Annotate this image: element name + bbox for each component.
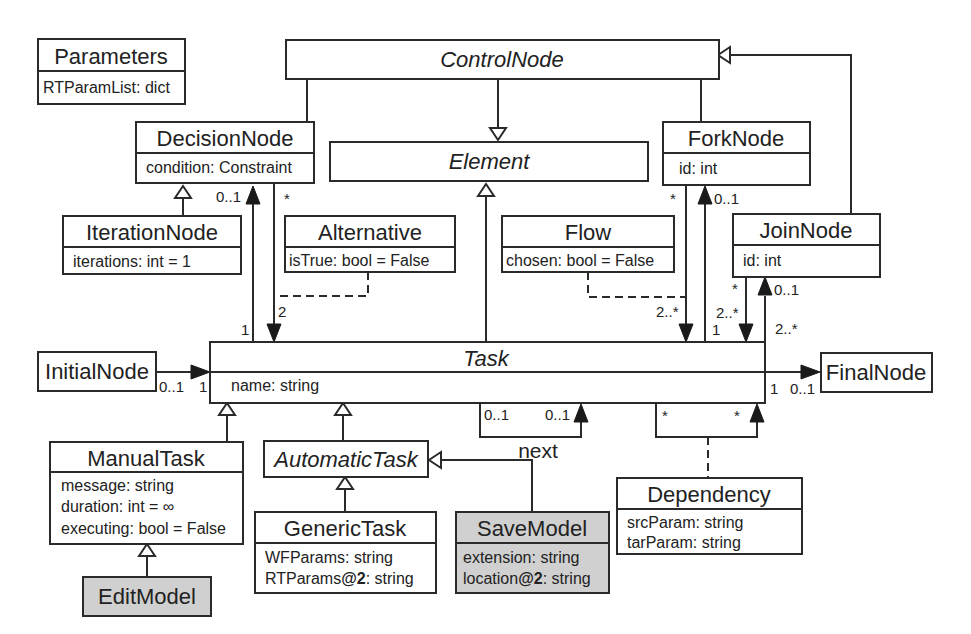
class-attr: location@2: string [463, 570, 591, 587]
arrowhead-icon [267, 324, 281, 342]
class-attr: iterations: int = 1 [73, 253, 191, 270]
class-name: ForkNode [688, 126, 785, 151]
class-joinnode[interactable]: JoinNode id: int [733, 214, 880, 277]
class-name: FinalNode [826, 360, 926, 385]
multiplicity: 2..* [656, 303, 679, 320]
class-attr: srcParam: string [627, 514, 743, 531]
class-name: Parameters [54, 44, 168, 69]
class-generictask[interactable]: GenericTask WFParams: string RTParams@2:… [255, 512, 436, 593]
multiplicity: 0..1 [545, 406, 570, 423]
generalization-arrow-icon [337, 477, 353, 489]
class-parameters[interactable]: Parameters RTParamList: dict [38, 39, 185, 104]
dependency-self-assoc [656, 403, 757, 437]
class-attr: WFParams: string [265, 549, 393, 566]
class-name: Task [463, 346, 510, 371]
class-name: GenericTask [284, 516, 407, 541]
generalization-arrow-icon [175, 186, 191, 198]
association-label-next: next [518, 439, 558, 462]
multiplicity: 0..1 [774, 281, 799, 298]
class-manualtask[interactable]: ManualTask message: string duration: int… [50, 442, 243, 544]
multiplicity: * [284, 190, 290, 207]
class-name: EditModel [98, 584, 196, 609]
uml-class-diagram: Parameters RTParamList: dict ControlNode… [0, 0, 971, 634]
class-attr: id: int [743, 252, 782, 269]
class-attr: executing: bool = False [61, 520, 226, 537]
class-name: IterationNode [86, 220, 218, 245]
class-editmodel[interactable]: EditModel [83, 577, 211, 616]
multiplicity: 0..1 [159, 378, 184, 395]
arrowhead-icon [698, 186, 712, 204]
multiplicity: * [670, 190, 676, 207]
class-attr: message: string [61, 477, 174, 494]
generalization-arrow-icon [335, 403, 351, 415]
class-attr: condition: Constraint [146, 159, 292, 176]
savemodel-to-automatic-line [440, 460, 532, 512]
class-decisionnode[interactable]: DecisionNode condition: Constraint [136, 122, 314, 183]
generalization-arrow-icon [478, 184, 494, 196]
class-name: ControlNode [440, 47, 564, 72]
arrowhead-icon [246, 186, 260, 204]
flow-assoc-class-link [588, 272, 686, 297]
multiplicity: * [732, 280, 738, 297]
generalization-arrow-icon [429, 452, 441, 468]
multiplicity: 2..* [775, 320, 798, 337]
multiplicity: 1 [199, 378, 207, 395]
class-controlnode[interactable]: ControlNode [286, 40, 719, 79]
class-attr: RTParamList: dict [43, 79, 170, 96]
multiplicity: 0..1 [714, 190, 739, 207]
class-name: Element [449, 149, 531, 174]
arrowhead-icon [750, 404, 764, 422]
generalization-arrow-icon [490, 128, 506, 140]
arrowhead-icon [801, 365, 820, 379]
class-automatictask[interactable]: AutomaticTask [264, 441, 428, 477]
class-name: DecisionNode [157, 126, 294, 151]
class-savemodel[interactable]: SaveModel extension: string location@2: … [456, 512, 609, 593]
class-alternative[interactable]: Alternative isTrue: bool = False [285, 216, 455, 272]
multiplicity: 1 [712, 321, 720, 338]
class-dependency[interactable]: Dependency srcParam: string tarParam: st… [617, 478, 802, 554]
class-element[interactable]: Element [330, 142, 648, 181]
multiplicity: 2..* [716, 304, 739, 321]
class-name: Flow [565, 220, 612, 245]
class-forknode[interactable]: ForkNode id: int [663, 122, 810, 185]
class-initialnode[interactable]: InitialNode [38, 352, 156, 391]
multiplicity: 0..1 [484, 406, 509, 423]
alternative-assoc-class-link [274, 272, 368, 296]
multiplicity: * [734, 407, 740, 424]
generalization-arrow-icon [219, 403, 235, 415]
multiplicity: 1 [241, 321, 249, 338]
class-attr: tarParam: string [627, 534, 741, 551]
class-flow[interactable]: Flow chosen: bool = False [502, 216, 674, 272]
class-attr: isTrue: bool = False [289, 252, 429, 269]
class-task[interactable]: Task name: string [210, 342, 765, 403]
multiplicity: 0..1 [790, 380, 815, 397]
multiplicity: 1 [770, 380, 778, 397]
class-iterationnode[interactable]: IterationNode iterations: int = 1 [63, 216, 241, 274]
class-attr: id: int [679, 160, 718, 177]
arrowhead-icon [574, 404, 588, 422]
class-attr: chosen: bool = False [506, 252, 654, 269]
multiplicity: 2 [278, 303, 286, 320]
class-name: Alternative [318, 220, 422, 245]
multiplicity: * [662, 407, 668, 424]
multiplicity: 0..1 [216, 188, 241, 205]
multiplicity-labels: 0..1 * 1 2 * 0..1 2..* 1 * 0..1 2..* 2..… [159, 188, 815, 462]
class-name: InitialNode [45, 359, 149, 384]
generalization-arrow-icon [139, 544, 155, 556]
class-name: JoinNode [760, 218, 853, 243]
class-name: Dependency [647, 482, 771, 507]
class-attr: name: string [231, 377, 319, 394]
arrowhead-icon [679, 324, 693, 342]
class-name: SaveModel [477, 516, 587, 541]
class-attr: RTParams@2: string [265, 570, 414, 587]
arrowhead-icon [758, 277, 772, 295]
class-name: AutomaticTask [272, 447, 418, 472]
class-finalnode[interactable]: FinalNode [821, 353, 932, 392]
class-attr: extension: string [463, 549, 580, 566]
arrowhead-icon [739, 324, 753, 342]
class-attr: duration: int = ∞ [61, 498, 174, 515]
class-name: ManualTask [87, 446, 205, 471]
arrowhead-icon [191, 365, 210, 379]
